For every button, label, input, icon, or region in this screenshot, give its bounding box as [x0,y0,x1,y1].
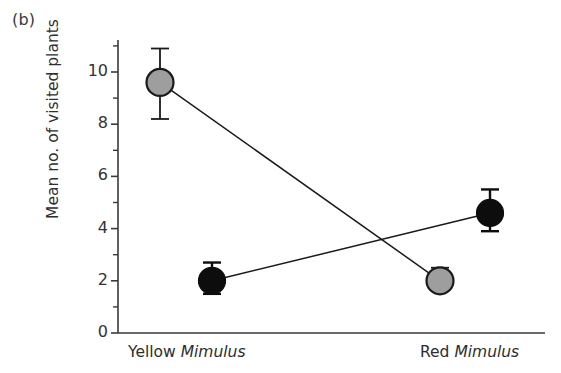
data-point-marker [427,267,454,294]
data-point-marker [477,199,504,226]
figure-panel-b: (b) Mean no. of visited plants 0246810 Y… [0,0,561,373]
plot-area [0,0,561,373]
series-line-grey-marker-series [160,82,440,280]
data-point-marker [147,69,174,96]
data-point-marker [199,267,226,294]
